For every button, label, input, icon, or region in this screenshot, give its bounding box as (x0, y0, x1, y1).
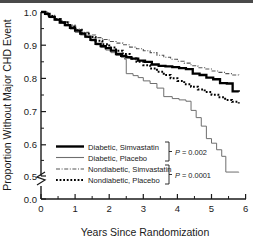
legend-label-diabetic-placebo: Diabetic, Placebo (88, 154, 147, 163)
figure-container: 1.0 0.9 0.8 0.7 0.6 0.5 0.0 0 1 2 (0, 0, 253, 244)
y-axis-major-ticks (41, 12, 46, 199)
y-tick-label-0.7: 0.7 (24, 106, 37, 117)
x-axis-major-ticks (41, 194, 246, 199)
legend: Diabetic, Simvastatin Diabetic, Placebo … (56, 143, 172, 186)
y-axis-title: Proportion Without Major CHD Event (1, 19, 13, 191)
x-tick-label-5: 5 (209, 203, 214, 214)
pvalue-annotations: P = 0.002 P = 0.0001 (165, 142, 211, 184)
legend-label-nondiabetic-simvastatin: Nondiabetic, Simvastatin (88, 165, 172, 174)
x-tick-label-4: 4 (175, 203, 180, 214)
pvalue-label-top: P = 0.002 (175, 148, 207, 157)
x-tick-label-6: 6 (243, 203, 248, 214)
y-tick-label-1.0: 1.0 (24, 7, 37, 18)
curve-diabetic-simvastatin (41, 12, 239, 92)
pvalue-bracket-top (165, 142, 172, 161)
survival-curve-chart: 1.0 0.9 0.8 0.7 0.6 0.5 0.0 0 1 2 (0, 0, 253, 244)
curve-nondiabetic-simvastatin (41, 12, 239, 76)
x-tick-label-0: 0 (38, 203, 43, 214)
y-tick-label-0.0: 0.0 (24, 194, 37, 205)
x-axis-title: Years Since Randomization (81, 226, 210, 238)
legend-label-nondiabetic-placebo: Nondiabetic, Placebo (88, 176, 160, 185)
y-tick-label-0.9: 0.9 (24, 40, 37, 51)
pvalue-value-bottom: = 0.0001 (180, 171, 211, 180)
y-tick-label-0.8: 0.8 (24, 73, 37, 84)
x-tick-label-3: 3 (141, 203, 146, 214)
legend-label-diabetic-simvastatin: Diabetic, Simvastatin (88, 143, 159, 152)
x-tick-label-1: 1 (72, 203, 77, 214)
x-tick-label-2: 2 (107, 203, 112, 214)
pvalue-value-top: = 0.002 (180, 148, 207, 157)
pvalue-label-bottom: P = 0.0001 (175, 171, 211, 180)
y-tick-label-0.6: 0.6 (24, 139, 37, 150)
y-axis-break-symbol (37, 172, 45, 186)
y-tick-label-0.5: 0.5 (24, 171, 37, 182)
